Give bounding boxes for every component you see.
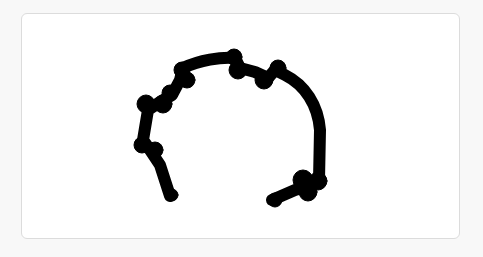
drawing-canvas[interactable] [21, 13, 460, 239]
